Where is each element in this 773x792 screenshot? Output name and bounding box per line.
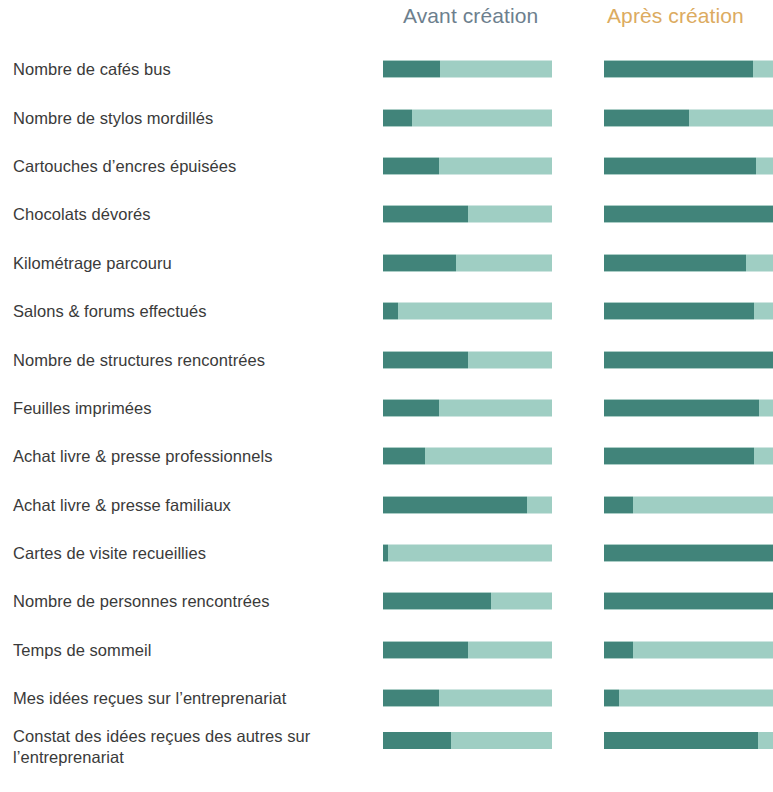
table-row: Nombre de structures rencontrées bbox=[0, 335, 773, 383]
bar-track-before bbox=[383, 351, 552, 368]
bar-track-after bbox=[604, 61, 773, 78]
bar-fill-before bbox=[383, 496, 527, 513]
table-row: Temps de sommeil bbox=[0, 626, 773, 674]
row-label: Constat des idées reçues des autres sur … bbox=[13, 726, 379, 768]
bar-track-after bbox=[604, 254, 773, 271]
row-label: Chocolats dévorés bbox=[13, 204, 379, 225]
bar-track-before bbox=[383, 399, 552, 416]
bar-track-after bbox=[604, 206, 773, 223]
bar-fill-before bbox=[383, 157, 439, 174]
column-header-before: Avant création bbox=[403, 4, 538, 28]
row-label: Temps de sommeil bbox=[13, 639, 379, 660]
bar-track-after bbox=[604, 399, 773, 416]
bar-track-before bbox=[383, 303, 552, 320]
column-header-after: Après création bbox=[607, 4, 744, 28]
table-row: Chocolats dévorés bbox=[0, 190, 773, 238]
bar-fill-before bbox=[383, 254, 456, 271]
table-row: Nombre de stylos mordillés bbox=[0, 93, 773, 141]
bar-fill-after bbox=[604, 690, 619, 707]
bar-fill-before bbox=[383, 399, 439, 416]
bar-track-before bbox=[383, 690, 552, 707]
bar-track-before bbox=[383, 157, 552, 174]
row-label: Kilométrage parcouru bbox=[13, 252, 379, 273]
bar-fill-after bbox=[604, 109, 689, 126]
bar-track-after bbox=[604, 641, 773, 658]
table-row: Achat livre & presse professionnels bbox=[0, 432, 773, 480]
table-row: Constat des idées reçues des autres sur … bbox=[0, 722, 773, 770]
table-row: Nombre de cafés bus bbox=[0, 45, 773, 93]
bar-track-before bbox=[383, 206, 552, 223]
bar-fill-after bbox=[604, 303, 754, 320]
bar-fill-before bbox=[383, 641, 468, 658]
bar-fill-after bbox=[604, 641, 633, 658]
comparison-bar-chart: Avant création Après création Nombre de … bbox=[0, 0, 773, 792]
row-label: Nombre de cafés bus bbox=[13, 59, 379, 80]
bar-track-after bbox=[604, 303, 773, 320]
bar-track-after bbox=[604, 109, 773, 126]
bar-track-after bbox=[604, 496, 773, 513]
bar-track-before bbox=[383, 496, 552, 513]
table-row: Feuilles imprimées bbox=[0, 384, 773, 432]
row-label: Salons & forums effectués bbox=[13, 301, 379, 322]
bar-track-after bbox=[604, 732, 773, 749]
row-label: Nombre de stylos mordillés bbox=[13, 107, 379, 128]
bar-fill-after bbox=[604, 206, 773, 223]
table-row: Kilométrage parcouru bbox=[0, 239, 773, 287]
bar-track-before bbox=[383, 593, 552, 610]
bar-fill-before bbox=[383, 351, 468, 368]
bar-track-before bbox=[383, 641, 552, 658]
bar-fill-after bbox=[604, 448, 754, 465]
bar-track-before bbox=[383, 448, 552, 465]
bar-track-before bbox=[383, 109, 552, 126]
bar-track-before bbox=[383, 545, 552, 562]
row-label: Cartes de visite recueillies bbox=[13, 543, 379, 564]
bar-fill-before bbox=[383, 61, 440, 78]
bar-track-before bbox=[383, 61, 552, 78]
bar-fill-after bbox=[604, 399, 759, 416]
row-label: Nombre de structures rencontrées bbox=[13, 349, 379, 370]
bar-track-after bbox=[604, 593, 773, 610]
bar-fill-after bbox=[604, 593, 773, 610]
bar-fill-before bbox=[383, 109, 412, 126]
bar-fill-after bbox=[604, 545, 773, 562]
table-row: Salons & forums effectués bbox=[0, 287, 773, 335]
row-label: Achat livre & presse professionnels bbox=[13, 446, 379, 467]
table-row: Nombre de personnes rencontrées bbox=[0, 577, 773, 625]
bar-track-after bbox=[604, 690, 773, 707]
bar-fill-before bbox=[383, 593, 491, 610]
row-label: Achat livre & presse familiaux bbox=[13, 494, 379, 515]
table-row: Mes idées reçues sur l’entreprenariat bbox=[0, 674, 773, 722]
bar-fill-before bbox=[383, 448, 425, 465]
bar-fill-after bbox=[604, 496, 633, 513]
chart-legend-header: Avant création Après création bbox=[0, 0, 773, 45]
row-label: Mes idées reçues sur l’entreprenariat bbox=[13, 688, 379, 709]
row-label: Cartouches d’encres épuisées bbox=[13, 155, 379, 176]
bar-fill-before bbox=[383, 303, 398, 320]
table-row: Achat livre & presse familiaux bbox=[0, 481, 773, 529]
bar-track-after bbox=[604, 157, 773, 174]
bar-track-after bbox=[604, 545, 773, 562]
bar-track-after bbox=[604, 448, 773, 465]
bar-fill-before bbox=[383, 545, 388, 562]
bar-fill-after bbox=[604, 61, 753, 78]
bar-fill-after bbox=[604, 732, 758, 749]
bar-track-after bbox=[604, 351, 773, 368]
table-row: Cartouches d’encres épuisées bbox=[0, 142, 773, 190]
row-label: Nombre de personnes rencontrées bbox=[13, 591, 379, 612]
bar-fill-after bbox=[604, 157, 756, 174]
chart-rows: Nombre de cafés busNombre de stylos mord… bbox=[0, 45, 773, 771]
table-row: Cartes de visite recueillies bbox=[0, 529, 773, 577]
row-label: Feuilles imprimées bbox=[13, 397, 379, 418]
bar-fill-before bbox=[383, 690, 439, 707]
bar-fill-before bbox=[383, 206, 468, 223]
bar-fill-after bbox=[604, 254, 746, 271]
bar-fill-before bbox=[383, 732, 451, 749]
bar-track-before bbox=[383, 732, 552, 749]
bar-fill-after bbox=[604, 351, 773, 368]
bar-track-before bbox=[383, 254, 552, 271]
